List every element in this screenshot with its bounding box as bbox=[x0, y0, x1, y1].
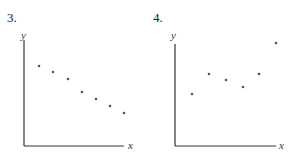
chart-4-y-axis-label: y bbox=[171, 30, 176, 41]
chart-3-title: 3. bbox=[7, 11, 17, 24]
data-point bbox=[109, 105, 112, 108]
data-point bbox=[242, 86, 245, 89]
scatter-plot-4 bbox=[175, 42, 277, 146]
chart-4-x-axis-label: x bbox=[279, 140, 284, 151]
data-point bbox=[191, 93, 194, 96]
plots-canvas bbox=[0, 0, 288, 155]
scatter-plot-3 bbox=[24, 40, 125, 146]
data-point bbox=[258, 73, 261, 76]
data-point bbox=[81, 91, 84, 94]
chart-4-title: 4. bbox=[153, 11, 163, 24]
chart-3-y-axis-label: y bbox=[21, 30, 26, 41]
data-point bbox=[38, 65, 41, 68]
data-point bbox=[67, 78, 70, 81]
data-point bbox=[225, 79, 228, 82]
data-point bbox=[208, 73, 211, 76]
data-point bbox=[52, 71, 55, 74]
data-point bbox=[123, 112, 126, 115]
data-point bbox=[95, 98, 98, 101]
chart-3-x-axis-label: x bbox=[128, 140, 133, 151]
data-point bbox=[275, 42, 278, 45]
